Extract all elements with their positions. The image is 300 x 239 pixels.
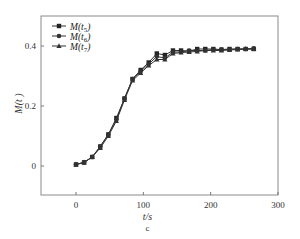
- x-tick-label: 200: [204, 200, 218, 210]
- x-tick-label: 300: [271, 200, 285, 210]
- line-chart: 010020030000.20.4t/scM(t )M(t5)M(t6)M(t7…: [0, 0, 300, 239]
- series-mt7: [73, 46, 256, 166]
- y-axis-label: M(t ): [13, 93, 25, 115]
- x-tick-label: 0: [74, 200, 79, 210]
- y-tick-label: 0: [32, 161, 37, 171]
- y-tick-label: 0.2: [25, 101, 36, 111]
- legend: M(t5)M(t6)M(t7): [52, 22, 90, 54]
- x-axis-label: t/s: [143, 211, 153, 222]
- x-tick-label: 100: [137, 200, 151, 210]
- legend-label: M(t7): [69, 42, 90, 54]
- y-tick-label: 0.4: [25, 41, 37, 51]
- figure-caption: c: [146, 223, 150, 233]
